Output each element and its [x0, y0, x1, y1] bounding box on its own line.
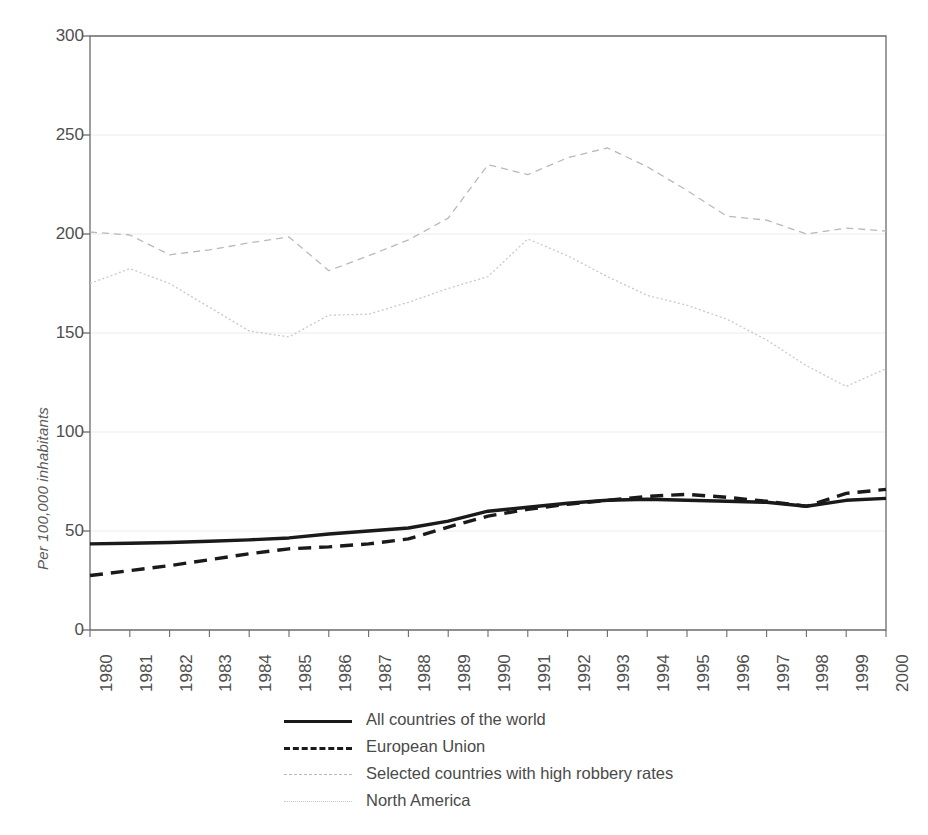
- legend-line-dashed-thick-icon: [284, 740, 352, 754]
- legend-item[interactable]: European Union: [284, 733, 844, 760]
- x-tick-label: 1994: [654, 654, 674, 692]
- legend-line-dashed-thin-icon: [284, 767, 352, 781]
- x-tick-label: 1984: [256, 654, 276, 692]
- x-tick-label: 1982: [177, 654, 197, 692]
- x-tick-label: 1988: [415, 654, 435, 692]
- x-tick-label: 2000: [893, 654, 913, 692]
- legend-line-solid-thick-icon: [284, 713, 352, 727]
- legend-line-dotted-thin-icon: [284, 794, 352, 808]
- x-tick-label: 1999: [853, 654, 873, 692]
- legend-item[interactable]: Selected countries with high robbery rat…: [284, 760, 844, 787]
- x-tick-label: 1990: [495, 654, 515, 692]
- legend-item[interactable]: North America: [284, 787, 844, 814]
- x-tick-label: 1989: [455, 654, 475, 692]
- x-tick-label: 1985: [296, 654, 316, 692]
- x-tick-label: 1991: [535, 654, 555, 692]
- x-tick-label: 1987: [376, 654, 396, 692]
- legend-item-label: European Union: [366, 738, 485, 755]
- x-tick-label: 1998: [813, 654, 833, 692]
- x-tick-label: 1997: [774, 654, 794, 692]
- x-tick-label: 1981: [137, 654, 157, 692]
- legend-item-label: All countries of the world: [366, 711, 546, 728]
- x-tick-label: 1980: [97, 654, 117, 692]
- x-tick-label: 1983: [216, 654, 236, 692]
- x-tick-label: 1995: [694, 654, 714, 692]
- legend-item-label: North America: [366, 792, 471, 809]
- legend-item-label: Selected countries with high robbery rat…: [366, 765, 673, 782]
- legend-item[interactable]: All countries of the world: [284, 706, 844, 733]
- robbery-rate-line-chart: Per 100,000 inhabitants 3002502001501005…: [0, 0, 928, 835]
- x-tick-label: 1996: [734, 654, 754, 692]
- chart-legend: All countries of the world European Unio…: [284, 706, 844, 814]
- x-tick-label: 1986: [336, 654, 356, 692]
- x-tick-label: 1993: [614, 654, 634, 692]
- x-tick-label: 1992: [575, 654, 595, 692]
